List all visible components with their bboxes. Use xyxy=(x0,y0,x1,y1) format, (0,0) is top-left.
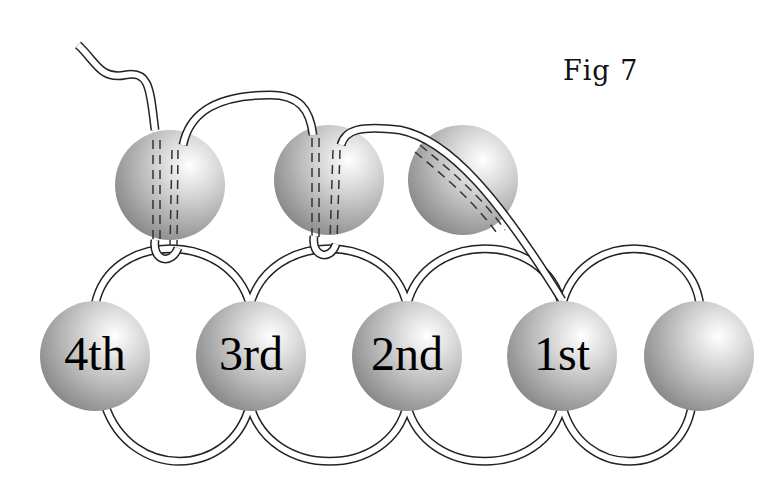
bead-label-3rd: 3rd xyxy=(191,330,311,378)
figure-title: Fig 7 xyxy=(563,55,638,86)
top-bead-2 xyxy=(274,125,384,235)
bead-label-2nd: 2nd xyxy=(347,330,467,378)
bead-label-1st: 1st xyxy=(502,330,622,378)
top-bead-1 xyxy=(115,130,225,240)
beadwork-diagram xyxy=(0,0,779,503)
top-row-beads xyxy=(115,125,518,240)
bead-label-4th: 4th xyxy=(35,330,155,378)
bottom-bead-5 xyxy=(644,301,754,411)
